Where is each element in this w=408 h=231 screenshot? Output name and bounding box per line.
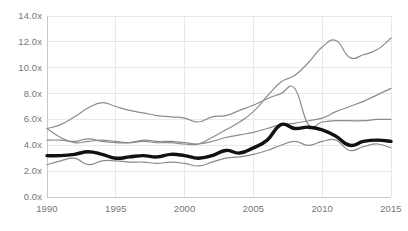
y-tick-label: 0.0x bbox=[0, 191, 42, 202]
x-tick-label: 2005 bbox=[231, 203, 275, 214]
y-tick-label: 10.0x bbox=[0, 62, 42, 73]
y-tick-label: 6.0x bbox=[0, 113, 42, 124]
x-tick-label: 2015 bbox=[369, 203, 408, 214]
x-tick-label: 1995 bbox=[94, 203, 138, 214]
line-chart-plot bbox=[0, 0, 408, 231]
y-tick-label: 4.0x bbox=[0, 139, 42, 150]
series-line-series-upper-mid bbox=[47, 86, 391, 128]
y-tick-label: 8.0x bbox=[0, 88, 42, 99]
chart-container: 14.0x12.0x10.0x8.0x6.0x4.0x2.0x0.0x 1990… bbox=[0, 0, 408, 231]
gridlines-horizontal bbox=[47, 16, 391, 171]
x-tick-label: 1990 bbox=[25, 203, 69, 214]
x-tick-label: 2000 bbox=[163, 203, 207, 214]
y-tick-label: 2.0x bbox=[0, 165, 42, 176]
x-tick-label: 2010 bbox=[300, 203, 344, 214]
series-line-series-highest bbox=[47, 38, 391, 145]
data-series-group bbox=[47, 38, 391, 166]
y-tick-label: 14.0x bbox=[0, 10, 42, 21]
y-tick-label: 12.0x bbox=[0, 36, 42, 47]
